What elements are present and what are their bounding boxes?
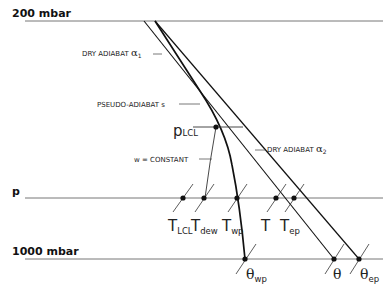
lcl-point (213, 124, 218, 129)
label-t: T (260, 217, 271, 235)
label-200-mbar: 200 mbar (12, 7, 72, 20)
point-t-wp (234, 195, 239, 200)
pressure-levels (25, 21, 383, 259)
label-mixing-ratio: w = CONSTANT (134, 156, 189, 164)
point-t-dew (201, 195, 206, 200)
label-1000-mbar-visible: 1000 mbar (12, 245, 79, 258)
thermodynamic-diagram: 200 mbar p 1000 mbar 1000 mbar DRY ADIAB… (0, 0, 387, 291)
point-theta-ep (356, 256, 361, 261)
label-theta-wp: θwp (246, 266, 267, 284)
label-p-lcl: pLCL (173, 122, 198, 140)
label-theta: θ (333, 266, 341, 282)
dry-adiabat-2-curve (155, 21, 359, 259)
label-theta-ep: θep (360, 266, 379, 284)
point-t (273, 195, 278, 200)
label-dry-adiabat-2: DRY ADIABAT α2 (267, 143, 327, 155)
point-t-ep (291, 195, 296, 200)
label-t-ep: Tep (279, 217, 300, 236)
label-pseudo-adiabat: PSEUDO-ADIABAT s (97, 101, 165, 109)
label-p-level: p (12, 185, 20, 198)
label-t-lcl: TLCL (167, 217, 193, 236)
label-t-dew: Tdew (190, 217, 218, 236)
point-theta (331, 256, 336, 261)
mixing-ratio-line (205, 127, 216, 198)
point-t-lcl (180, 195, 185, 200)
point-theta-wp (242, 256, 247, 261)
label-dry-adiabat-1: DRY ADIABAT α1 (82, 47, 142, 59)
